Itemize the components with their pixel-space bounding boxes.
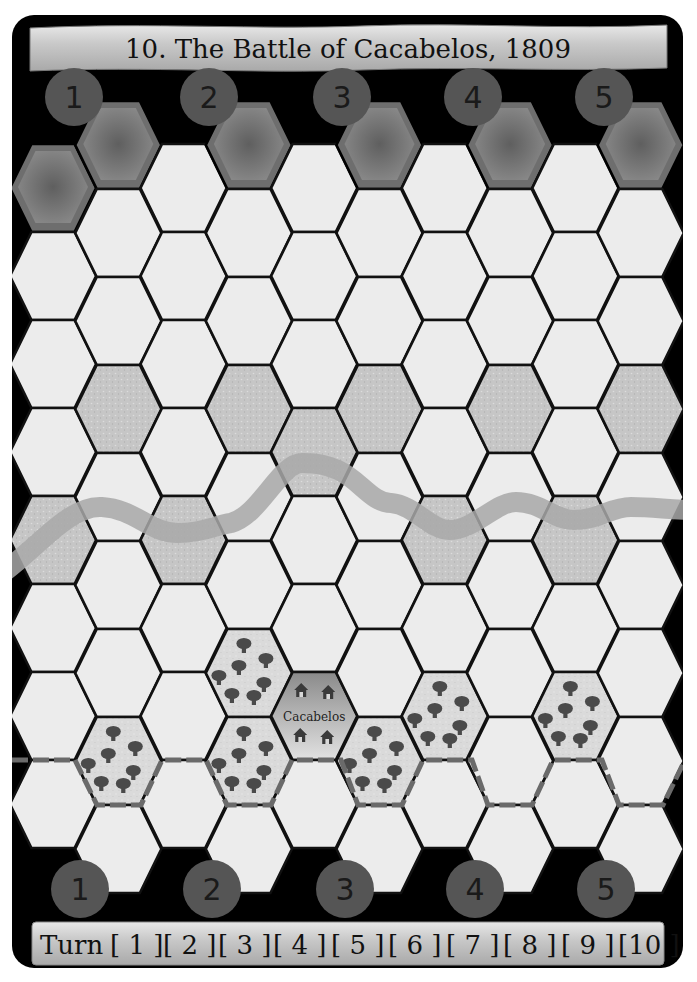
svg-text:[10 ]: [10 ] — [618, 930, 680, 960]
turn-track: Turn [ 1 ][ 2 ][ 3 ][ 4 ][ 5 ][ 6 ][ 7 ]… — [40, 930, 680, 960]
svg-text:5: 5 — [596, 872, 615, 907]
svg-text:[ 2 ]: [ 2 ] — [163, 930, 216, 960]
svg-text:3: 3 — [335, 872, 354, 907]
turn-box-5[interactable]: [ 5 ] — [331, 930, 384, 960]
bottom-marker-3[interactable]: 3 — [316, 860, 374, 918]
bottom-marker-1[interactable]: 1 — [51, 860, 109, 918]
turn-box-8[interactable]: [ 8 ] — [503, 930, 556, 960]
svg-text:[ 4 ]: [ 4 ] — [273, 930, 326, 960]
turn-label: Turn — [40, 930, 104, 960]
bottom-marker-4[interactable]: 4 — [446, 860, 504, 918]
top-marker-2[interactable]: 2 — [180, 68, 238, 126]
turn-box-7[interactable]: [ 7 ] — [446, 930, 499, 960]
svg-text:4: 4 — [463, 80, 482, 115]
svg-text:[ 6 ]: [ 6 ] — [388, 930, 441, 960]
svg-text:[ 5 ]: [ 5 ] — [331, 930, 384, 960]
svg-text:[ 8 ]: [ 8 ] — [503, 930, 556, 960]
top-marker-1[interactable]: 1 — [45, 68, 103, 126]
scenario-title: 10. The Battle of Cacabelos, 1809 — [125, 34, 571, 64]
turn-box-1[interactable]: [ 1 ] — [110, 930, 163, 960]
top-marker-4[interactable]: 4 — [444, 68, 502, 126]
top-marker-3[interactable]: 3 — [313, 68, 371, 126]
turn-box-3[interactable]: [ 3 ] — [218, 930, 271, 960]
game-board: Cacabelos 10. The Battle of Cacabelos, 1… — [0, 0, 697, 982]
svg-text:[ 3 ]: [ 3 ] — [218, 930, 271, 960]
svg-text:5: 5 — [594, 80, 613, 115]
svg-text:[ 9 ]: [ 9 ] — [561, 930, 614, 960]
svg-text:3: 3 — [332, 80, 351, 115]
svg-text:[ 1 ]: [ 1 ] — [110, 930, 163, 960]
turn-box-2[interactable]: [ 2 ] — [163, 930, 216, 960]
bottom-marker-2[interactable]: 2 — [183, 860, 241, 918]
turn-box-10[interactable]: [10 ] — [618, 930, 680, 960]
svg-text:4: 4 — [465, 872, 484, 907]
svg-text:[ 7 ]: [ 7 ] — [446, 930, 499, 960]
hex-grid — [10, 101, 684, 893]
svg-text:2: 2 — [202, 872, 221, 907]
svg-text:1: 1 — [70, 872, 89, 907]
turn-box-9[interactable]: [ 9 ] — [561, 930, 614, 960]
town-label: Cacabelos — [283, 710, 345, 724]
turn-box-4[interactable]: [ 4 ] — [273, 930, 326, 960]
top-marker-5[interactable]: 5 — [575, 68, 633, 126]
bottom-marker-5[interactable]: 5 — [577, 860, 635, 918]
turn-box-6[interactable]: [ 6 ] — [388, 930, 441, 960]
svg-text:1: 1 — [64, 80, 83, 115]
svg-text:2: 2 — [199, 80, 218, 115]
